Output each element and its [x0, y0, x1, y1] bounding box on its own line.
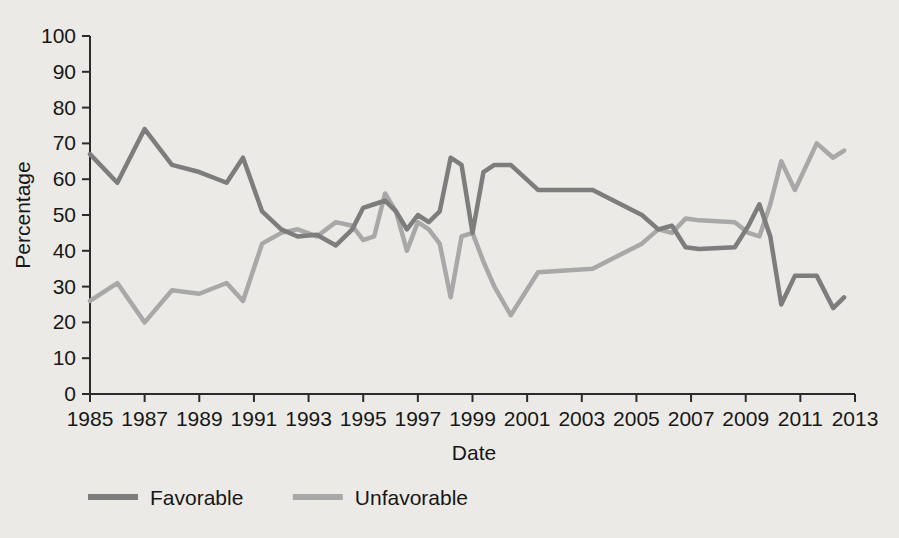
- x-tick-label: 2005: [613, 407, 660, 430]
- y-tick-label: 80: [53, 96, 76, 119]
- y-tick-label: 20: [53, 310, 76, 333]
- y-tick-label: 30: [53, 275, 76, 298]
- legend-label: Favorable: [150, 486, 243, 509]
- y-tick-label: 40: [53, 239, 76, 262]
- y-tick-label: 50: [53, 203, 76, 226]
- x-axis-title: Date: [452, 441, 496, 464]
- x-tick-label: 2013: [832, 407, 879, 430]
- series-line-favorable: [90, 129, 844, 308]
- x-axis-ticks: 1985198719891991199319951997199920012003…: [67, 394, 879, 430]
- y-tick-label: 10: [53, 346, 76, 369]
- y-tick-label: 70: [53, 131, 76, 154]
- line-chart: 0102030405060708090100 19851987198919911…: [0, 0, 899, 538]
- x-tick-label: 1987: [121, 407, 168, 430]
- x-tick-label: 1997: [394, 407, 441, 430]
- legend-label: Unfavorable: [355, 486, 468, 509]
- y-tick-label: 90: [53, 60, 76, 83]
- chart-legend: FavorableUnfavorable: [88, 486, 468, 509]
- x-tick-label: 1995: [340, 407, 387, 430]
- x-tick-label: 2009: [722, 407, 769, 430]
- x-tick-label: 1999: [449, 407, 496, 430]
- x-tick-label: 2007: [668, 407, 715, 430]
- y-axis-ticks: 0102030405060708090100: [41, 24, 90, 405]
- y-tick-label: 60: [53, 167, 76, 190]
- x-tick-label: 2001: [504, 407, 551, 430]
- x-tick-label: 1991: [231, 407, 278, 430]
- series-lines: [90, 129, 844, 322]
- x-tick-label: 1993: [285, 407, 332, 430]
- x-tick-label: 1989: [176, 407, 223, 430]
- x-tick-label: 2011: [778, 407, 823, 430]
- y-tick-label: 100: [41, 24, 76, 47]
- x-tick-label: 2003: [558, 407, 605, 430]
- x-tick-label: 1985: [67, 407, 114, 430]
- y-tick-label: 0: [64, 382, 76, 405]
- y-axis-title: Percentage: [11, 161, 34, 268]
- chart-container: 0102030405060708090100 19851987198919911…: [0, 0, 899, 538]
- series-line-unfavorable: [90, 143, 844, 322]
